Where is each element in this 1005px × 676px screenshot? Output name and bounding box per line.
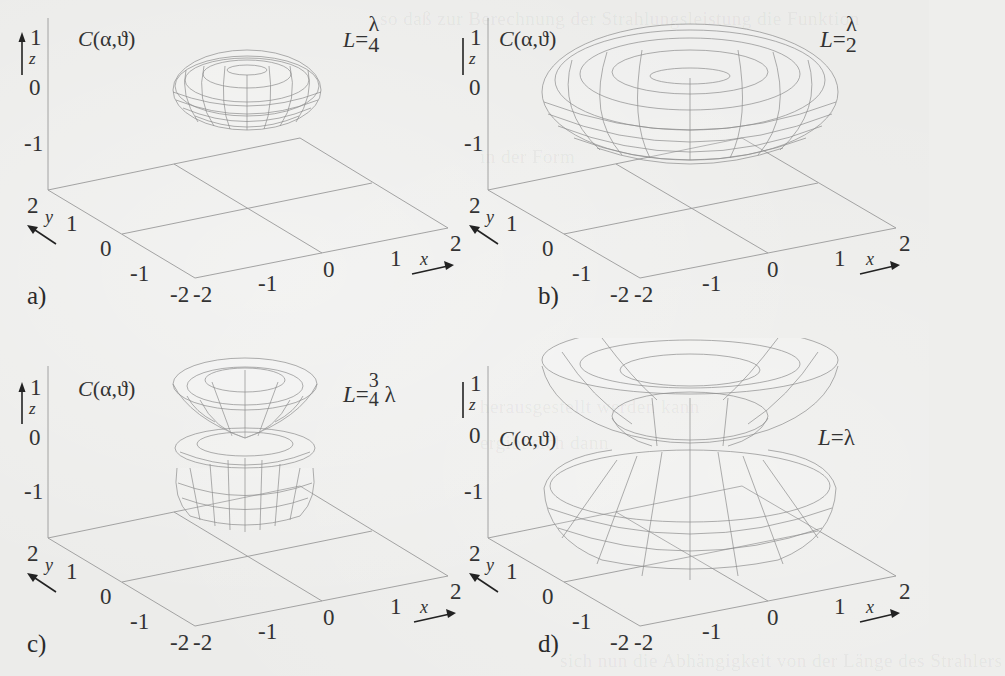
x-tick: -1: [258, 272, 277, 295]
y-tick: 1: [506, 560, 518, 583]
function-label: C(α,ϑ): [78, 376, 135, 402]
z-tick: -1: [464, 480, 483, 503]
x-axis-label: x: [420, 250, 428, 268]
function-label: C(α,ϑ): [499, 426, 556, 452]
y-tick: -1: [572, 610, 591, 633]
torus-b: [542, 24, 838, 164]
x-tick: -2: [193, 283, 212, 306]
x-tick: 0: [767, 606, 779, 629]
z-axis-label: z: [29, 50, 36, 67]
panel-d: 1 z 0 -1 C(α,ϑ) L=λ 2 y 1 0 -1 -2 -2 -1 …: [462, 338, 927, 676]
y-tick: -1: [130, 610, 149, 633]
x-tick: 1: [390, 595, 402, 618]
x-tick: 2: [450, 232, 462, 255]
z-tick: 0: [29, 426, 41, 449]
z-tick: 0: [29, 76, 41, 99]
y-tick: -1: [572, 262, 591, 285]
frac-den: 2: [846, 35, 857, 56]
x-tick: -2: [634, 283, 653, 306]
y-tick: -2: [610, 631, 629, 654]
z-axis-label: z: [29, 400, 36, 417]
x-axis-label: x: [866, 250, 874, 268]
y-tick: -2: [170, 283, 189, 306]
z-tick: 1: [30, 376, 42, 399]
y-tick: 0: [542, 237, 554, 260]
x-axis-label: x: [420, 598, 428, 616]
x-axis-label: x: [866, 598, 874, 616]
z-tick: -1: [464, 132, 483, 155]
length-label: L=λ2: [820, 28, 857, 56]
y-tick: -1: [130, 262, 149, 285]
frac-den: 4: [368, 35, 379, 56]
panel-b: 1 z 0 -1 C(α,ϑ) L=λ2 2 y 1 0 -1 -2 -2 -1…: [462, 0, 927, 338]
z-tick: 0: [469, 76, 481, 99]
panel-tag: b): [538, 282, 559, 310]
x-tick: -1: [702, 620, 721, 643]
y-tick: 2: [469, 194, 481, 217]
y-axis-label: y: [45, 556, 53, 574]
plot-3d: [0, 0, 465, 338]
x-tick: 0: [767, 258, 779, 281]
length-suffix: λ: [379, 382, 396, 407]
y-tick: 2: [27, 542, 39, 565]
x-tick: 0: [323, 258, 335, 281]
frac-num: 3: [369, 371, 379, 390]
plot-3d: [462, 338, 929, 676]
z-tick: 1: [30, 26, 42, 49]
y-tick: -2: [170, 631, 189, 654]
z-tick: 1: [470, 26, 482, 49]
x-tick: -2: [634, 631, 653, 654]
y-tick: 0: [542, 585, 554, 608]
y-axis-label: y: [45, 208, 53, 226]
length-label: LL==λ4: [343, 28, 379, 56]
y-tick: 1: [66, 212, 78, 235]
x-tick: 2: [899, 232, 911, 255]
torus-a: [173, 50, 321, 130]
y-tick: 0: [100, 585, 112, 608]
z-tick: 0: [469, 424, 481, 447]
y-axis-label: y: [486, 208, 494, 226]
x-tick: -2: [193, 631, 212, 654]
y-tick: 0: [100, 237, 112, 260]
z-tick: -1: [24, 480, 43, 503]
x-tick: -1: [258, 620, 277, 643]
y-tick: 2: [469, 542, 481, 565]
lobes-c: [173, 358, 317, 532]
panel-c: 1 z 0 -1 C(α,ϑ) L=34 λ 2 y 1 0 -1 -2 -2 …: [0, 338, 465, 676]
y-tick: 1: [506, 212, 518, 235]
z-tick: 1: [470, 372, 482, 395]
y-tick: 1: [66, 560, 78, 583]
x-tick: 1: [834, 595, 846, 618]
frac-den: 4: [369, 390, 379, 409]
x-tick: 0: [323, 606, 335, 629]
panel-a: 1 z 0 -1 CC(α,ϑ)(α,ϑ) LL==λ4 2 y 1 0 -1 …: [0, 0, 465, 338]
y-axis-label: y: [486, 556, 494, 574]
x-tick: 1: [390, 247, 402, 270]
length-label: L=34 λ: [343, 383, 396, 409]
function-label: CC(α,ϑ)(α,ϑ): [78, 26, 135, 52]
y-tick: -2: [610, 283, 629, 306]
length-label: L=λ: [818, 426, 855, 449]
panel-tag: a): [27, 282, 46, 310]
panel-tag: d): [538, 630, 559, 658]
x-tick: 2: [899, 580, 911, 603]
z-tick: -1: [24, 132, 43, 155]
x-tick: -1: [702, 272, 721, 295]
x-tick: 2: [450, 580, 462, 603]
lobes-d: [542, 338, 838, 580]
z-axis-label: z: [469, 396, 476, 413]
length-suffix: λ: [844, 425, 855, 450]
function-label: C(α,ϑ): [499, 26, 556, 52]
x-tick: 1: [834, 247, 846, 270]
z-axis-label: z: [469, 50, 476, 67]
panel-tag: c): [27, 630, 46, 658]
y-tick: 2: [27, 194, 39, 217]
